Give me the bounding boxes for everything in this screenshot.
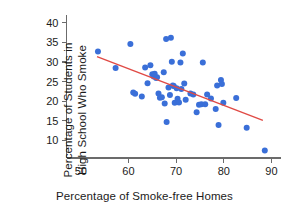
x-axis-title: Percentage of Smoke-free Homes — [0, 190, 289, 202]
data-point — [216, 122, 222, 128]
data-point — [161, 69, 167, 75]
data-point — [95, 48, 101, 54]
y-axis-tick-label: 20 — [46, 96, 58, 107]
data-point — [127, 41, 133, 47]
data-point — [183, 97, 189, 103]
data-point — [132, 91, 138, 97]
y-axis-tick-label: 30 — [46, 57, 58, 68]
data-point — [113, 65, 119, 71]
y-axis-title-line-1: Percentage of Students in — [61, 43, 75, 178]
data-point — [147, 62, 153, 68]
data-point — [244, 125, 250, 131]
y-axis-tick-label: 35 — [46, 37, 58, 48]
data-point — [139, 94, 145, 100]
data-point — [200, 59, 206, 65]
data-point — [169, 59, 175, 65]
data-point — [202, 101, 208, 107]
data-point — [177, 59, 183, 65]
data-point — [142, 65, 148, 71]
y-axis-tick-label: 15 — [46, 115, 58, 126]
data-point — [181, 81, 187, 87]
data-point — [262, 148, 268, 154]
data-point — [233, 95, 239, 101]
y-axis-tick-label: 25 — [46, 76, 58, 87]
x-axis-tick-marks — [81, 158, 272, 163]
data-point — [194, 109, 200, 115]
data-point — [219, 81, 225, 87]
data-point — [162, 101, 168, 107]
y-axis-title-line-2: High School Who Smoke — [75, 45, 89, 175]
y-axis-tick-label: 10 — [46, 135, 58, 146]
x-axis-tick-label: 90 — [265, 166, 277, 177]
data-point — [159, 94, 165, 100]
data-point — [167, 92, 173, 98]
data-point — [176, 99, 182, 105]
y-axis-tick-label: 40 — [46, 17, 58, 28]
data-point — [180, 50, 186, 56]
data-point — [164, 119, 170, 125]
plot-canvas — [0, 0, 289, 205]
data-point — [168, 35, 174, 41]
data-points — [95, 35, 268, 154]
x-axis-tick-label: 70 — [170, 166, 182, 177]
data-point — [145, 80, 151, 86]
scatter-plot-figure: 10152025303540 5060708090 Percentage of … — [0, 0, 289, 205]
x-axis-tick-label: 60 — [122, 166, 134, 177]
x-axis-tick-label: 80 — [218, 166, 230, 177]
trend-line — [97, 57, 263, 121]
regression-line — [97, 57, 263, 121]
data-point — [213, 106, 219, 112]
y-axis-title: Percentage of Students in High School Wh… — [58, 34, 92, 186]
